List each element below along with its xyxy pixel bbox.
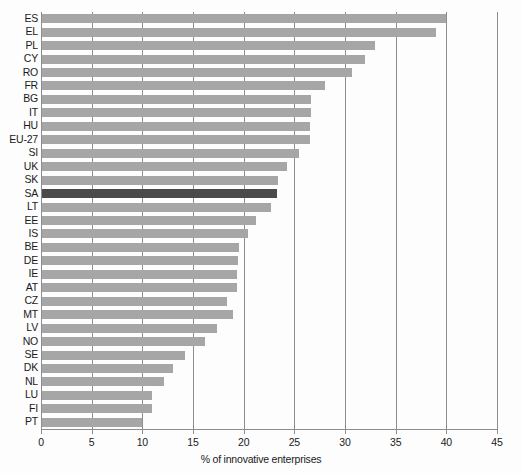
bar-lt (41, 203, 271, 212)
bar-se (41, 351, 185, 360)
bar-nl (41, 377, 164, 386)
bar-row (41, 176, 278, 185)
bar-row (41, 135, 310, 144)
bar-uk (41, 162, 287, 171)
bar-it (41, 108, 311, 117)
bar-es (41, 14, 446, 23)
category-label-es: ES (0, 13, 38, 24)
category-label-pl: PL (0, 40, 38, 51)
bar-row (41, 55, 365, 64)
category-label-no: NO (0, 336, 38, 347)
bar-fi (41, 404, 152, 413)
bar-eu-27 (41, 135, 310, 144)
category-label-lv: LV (0, 322, 38, 333)
bar-no (41, 337, 205, 346)
bar-row (41, 256, 238, 265)
category-label-sk: SK (0, 174, 38, 185)
bar-si (41, 149, 299, 158)
bar-pt (41, 418, 142, 427)
category-label-dk: DK (0, 362, 38, 373)
x-tick-mark-30 (345, 429, 346, 434)
bar-bg (41, 95, 311, 104)
category-label-at: AT (0, 282, 38, 293)
category-label-lu: LU (0, 389, 38, 400)
category-label-se: SE (0, 349, 38, 360)
bar-row (41, 149, 299, 158)
category-label-eu-27: EU-27 (0, 134, 38, 145)
category-label-el: EL (0, 26, 38, 37)
bar-de (41, 256, 238, 265)
bar-row (41, 203, 271, 212)
bar-is (41, 229, 248, 238)
gridline-45 (497, 12, 498, 429)
x-tick-label-15: 15 (187, 436, 198, 448)
bar-row (41, 418, 142, 427)
bar-row (41, 243, 239, 252)
bar-row (41, 324, 217, 333)
category-label-is: IS (0, 228, 38, 239)
bar-fr (41, 81, 325, 90)
bar-cz (41, 297, 227, 306)
bar-cy (41, 55, 365, 64)
category-label-hu: HU (0, 120, 38, 131)
category-axis-labels: ESELPLCYROFRBGITHUEU-27SIUKSKSALTEEISBED… (0, 12, 38, 429)
bar-sk (41, 176, 278, 185)
category-label-it: IT (0, 107, 38, 118)
plot-area (41, 12, 497, 429)
bar-row (41, 351, 185, 360)
x-tick-mark-10 (142, 429, 143, 434)
bar-row (41, 337, 205, 346)
bar-row (41, 28, 436, 37)
bar-row (41, 162, 287, 171)
x-tick-mark-35 (396, 429, 397, 434)
bar-row (41, 41, 375, 50)
bar-ie (41, 270, 237, 279)
x-tick-mark-45 (497, 429, 498, 434)
category-label-cy: CY (0, 53, 38, 64)
bar-mt (41, 310, 233, 319)
x-tick-label-45: 45 (491, 436, 502, 448)
bar-hu (41, 122, 310, 131)
bar-be (41, 243, 239, 252)
x-tick-mark-20 (244, 429, 245, 434)
bar-row (41, 68, 352, 77)
category-label-ie: IE (0, 268, 38, 279)
bar-row (41, 108, 311, 117)
category-label-nl: NL (0, 376, 38, 387)
x-tick-label-10: 10 (137, 436, 148, 448)
bar-row (41, 229, 248, 238)
bar-pl (41, 41, 375, 50)
category-label-fr: FR (0, 80, 38, 91)
category-label-lt: LT (0, 201, 38, 212)
bar-row (41, 81, 325, 90)
bar-row (41, 189, 277, 198)
chart-top-margin (0, 0, 522, 8)
bar-row (41, 391, 152, 400)
bar-dk (41, 364, 173, 373)
bar-row (41, 364, 173, 373)
bar-ro (41, 68, 352, 77)
x-tick-label-30: 30 (339, 436, 350, 448)
bar-row (41, 310, 233, 319)
x-tick-mark-40 (446, 429, 447, 434)
x-axis-title: % of innovative enterprises (0, 453, 522, 465)
bar-at (41, 283, 237, 292)
bar-lv (41, 324, 217, 333)
category-label-ee: EE (0, 215, 38, 226)
bars-group (41, 12, 497, 429)
bar-row (41, 283, 237, 292)
bar-row (41, 404, 152, 413)
bar-row (41, 270, 237, 279)
category-label-uk: UK (0, 161, 38, 172)
bar-el (41, 28, 436, 37)
bar-chart: ESELPLCYROFRBGITHUEU-27SIUKSKSALTEEISBED… (0, 0, 522, 473)
category-label-cz: CZ (0, 295, 38, 306)
x-tick-mark-25 (294, 429, 295, 434)
x-axis-line (41, 429, 498, 430)
category-label-sa: SA (0, 188, 38, 199)
bar-row (41, 216, 256, 225)
category-label-fi: FI (0, 403, 38, 414)
bar-lu (41, 391, 152, 400)
x-tick-label-25: 25 (289, 436, 300, 448)
category-label-mt: MT (0, 309, 38, 320)
